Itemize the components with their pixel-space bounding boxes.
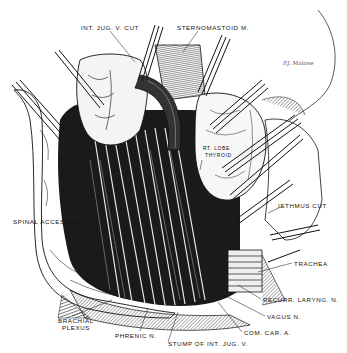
label-trachea: TRACHEA: [294, 261, 328, 267]
label-vagus-n: VAGUS N.: [267, 314, 301, 320]
label-sternomastoid-m: STERNOMASTOID M.: [177, 25, 249, 31]
illustration: P.J. Malone INT. JUG. V. CUT STERNOMASTO…: [0, 0, 347, 353]
artist-signature: P.J. Malone: [283, 60, 313, 66]
label-isthmus-cut: ISTHMUS CUT: [278, 203, 327, 209]
label-recurr-laryng-n: RECURR. LARYNG. N.: [263, 297, 339, 303]
label-spinal-access-n: SPINAL ACCESS N.: [13, 219, 79, 225]
label-stump-of-int-jug-v: STUMP OF INT. JUG. V.: [168, 341, 248, 347]
label-phrenic-n: PHRENIC N.: [115, 333, 157, 339]
label-rt-lobe: RT. LOBE: [203, 146, 230, 151]
label-com-car-a: COM. CAR. A.: [244, 330, 291, 336]
label-int-jug-v-cut: INT. JUG. V. CUT: [81, 25, 139, 31]
label-plexus: PLEXUS: [62, 325, 90, 331]
label-thyroid: THYROID: [205, 153, 232, 158]
